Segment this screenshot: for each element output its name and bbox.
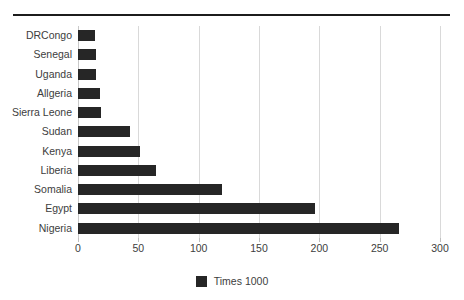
- bar-row: [78, 45, 440, 64]
- bar-row: [78, 122, 440, 141]
- bar: [78, 69, 96, 80]
- x-tick-label-100: 100: [190, 242, 208, 254]
- category-label: Sierra Leone: [0, 103, 72, 122]
- category-label: Kenya: [0, 142, 72, 161]
- category-label: Somalia: [0, 180, 72, 199]
- bar: [78, 203, 315, 214]
- legend-swatch-times-1000: [196, 276, 207, 287]
- x-tick-label-200: 200: [311, 242, 329, 254]
- category-label: Uganda: [0, 65, 72, 84]
- bar-row: [78, 84, 440, 103]
- value-axis-tick-labels: 050100150200250300: [0, 242, 464, 258]
- bar: [78, 30, 95, 41]
- bar-row: [78, 65, 440, 84]
- top-divider-rule: [13, 14, 450, 16]
- bar: [78, 88, 100, 99]
- bar-row: [78, 219, 440, 238]
- bar-row: [78, 103, 440, 122]
- bar: [78, 107, 101, 118]
- x-tick-label-50: 50: [132, 242, 144, 254]
- bar: [78, 146, 140, 157]
- category-label: Allgeria: [0, 84, 72, 103]
- bar-series: [78, 26, 440, 238]
- bar-row: [78, 142, 440, 161]
- bar-row: [78, 180, 440, 199]
- category-label: Egypt: [0, 199, 72, 218]
- bar-chart: DRCongoSenegalUgandaAllgeriaSierra Leone…: [0, 0, 464, 300]
- x-tick-label-0: 0: [75, 242, 81, 254]
- bar: [78, 49, 96, 60]
- bar: [78, 223, 399, 234]
- bar: [78, 165, 156, 176]
- plot-area: [78, 26, 440, 238]
- category-label: Nigeria: [0, 219, 72, 238]
- bar-row: [78, 26, 440, 45]
- category-label: Senegal: [0, 45, 72, 64]
- bar-row: [78, 199, 440, 218]
- category-label: Liberia: [0, 161, 72, 180]
- category-label: DRCongo: [0, 26, 72, 45]
- bar: [78, 184, 222, 195]
- x-tick-label-300: 300: [431, 242, 449, 254]
- x-tick-label-250: 250: [371, 242, 389, 254]
- category-axis-labels: DRCongoSenegalUgandaAllgeriaSierra Leone…: [0, 26, 72, 238]
- bar: [78, 126, 130, 137]
- chart-legend: Times 1000: [0, 272, 464, 290]
- bar-row: [78, 161, 440, 180]
- x-tick-label-150: 150: [250, 242, 268, 254]
- gridline-300: [440, 26, 441, 238]
- legend-label-times-1000: Times 1000: [214, 275, 268, 287]
- category-label: Sudan: [0, 122, 72, 141]
